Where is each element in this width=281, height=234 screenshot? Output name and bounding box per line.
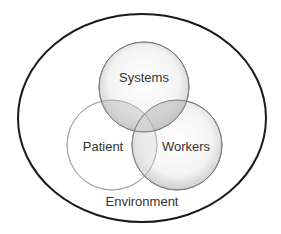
systems-label: Systems: [119, 70, 169, 85]
patient-label: Patient: [83, 139, 124, 154]
environment-label: Environment: [106, 194, 179, 209]
workers-label: Workers: [162, 139, 211, 154]
venn-diagram: Systems Patient Workers Environment: [0, 0, 281, 234]
